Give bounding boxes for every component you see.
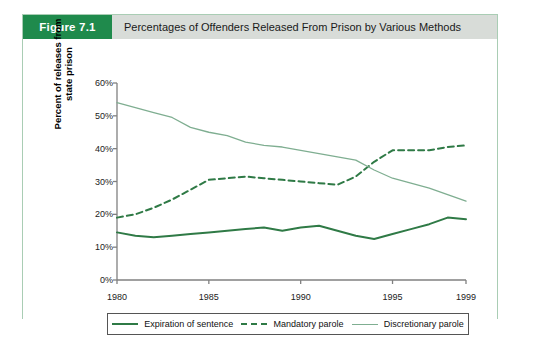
series-line-discretionary-parole [117,103,466,202]
figure-title: Percentages of Offenders Released From P… [112,15,497,39]
x-tick-label: 1999 [456,292,476,302]
legend-label-expiration: Expiration of sentence [144,319,233,329]
series-line-mandatory-parole [117,145,466,217]
x-tick-label: 1980 [107,292,127,302]
y-tick-label: 50% [79,111,113,121]
legend-swatch-dashed-line-icon [241,323,267,325]
legend-swatch-solid-line-icon [112,323,138,325]
x-tick-label: 1985 [199,292,219,302]
legend-item-discretionary: Discretionary parole [352,319,464,329]
legend-swatch-thin-line-icon [352,324,378,325]
y-tick-label: 20% [79,209,113,219]
y-tick-label: 0% [79,275,113,285]
chart-plot-area: Percent of releases from state prison 0%… [23,39,497,320]
legend-label-discretionary: Discretionary parole [384,319,464,329]
y-tick-label: 30% [79,177,113,187]
chart-series-group [117,103,466,239]
chart-legend: Expiration of sentence Mandatory parole … [107,313,469,335]
legend-label-mandatory: Mandatory parole [273,319,343,329]
y-tick-label: 10% [79,242,113,252]
x-tick-label: 1990 [291,292,311,302]
y-tick-label: 40% [79,144,113,154]
legend-item-mandatory: Mandatory parole [241,319,343,329]
figure-card: Figure 7.1 Percentages of Offenders Rele… [22,14,498,319]
x-tick-label: 1995 [383,292,403,302]
y-axis-tick-labels: 0%10%20%30%40%50%60% [79,39,113,320]
y-tick-label: 60% [79,78,113,88]
legend-item-expiration: Expiration of sentence [112,319,233,329]
figure-number-badge: Figure 7.1 [23,15,112,39]
series-line-expiration-of-sentence [117,218,466,239]
figure-header: Figure 7.1 Percentages of Offenders Rele… [23,15,497,39]
